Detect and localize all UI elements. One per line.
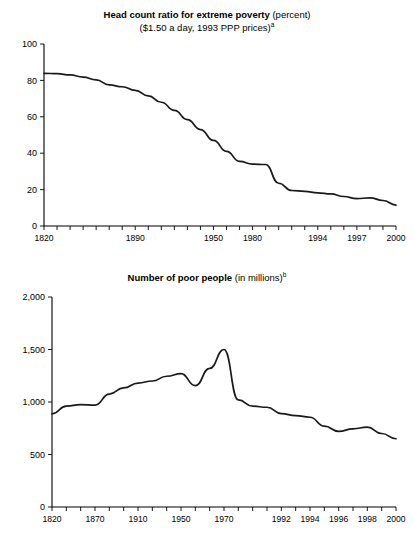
poverty-charts-figure: Head count ratio for extreme poverty (pe…	[0, 0, 414, 540]
y-axis-tick-label: 0	[32, 221, 37, 231]
chart2-title-superscript: b	[283, 271, 287, 278]
y-axis-tick-label: 2,000	[22, 292, 45, 302]
x-axis-tick-label: 1870	[85, 514, 104, 524]
chart-number-of-poor-people: Number of poor people (in millions)b 050…	[0, 268, 414, 540]
chart2-title-rest: (in millions)	[232, 272, 283, 283]
x-axis-tick-label: 1994	[300, 514, 319, 524]
y-axis-tick-label: 80	[27, 76, 37, 86]
data-series-line	[44, 73, 396, 205]
chart1-subtitle-superscript: a	[271, 20, 275, 27]
x-axis-tick-label: 2000	[386, 514, 405, 524]
x-axis-tick-label: 1970	[214, 514, 233, 524]
y-axis-tick-label: 100	[22, 39, 37, 49]
x-axis-tick-label: 2000	[386, 233, 405, 243]
chart1-subtitle: ($1.50 a day, 1993 PPP prices)	[140, 22, 271, 33]
chart2-svg: 05001,0001,5002,000182018701910195019701…	[0, 285, 414, 533]
chart1-title: Head count ratio for extreme poverty (pe…	[0, 0, 414, 34]
y-axis-tick-label: 20	[27, 185, 37, 195]
chart1-title-rest: (percent)	[270, 9, 311, 20]
x-axis-tick-label: 1997	[347, 233, 366, 243]
y-axis-tick-label: 500	[30, 449, 45, 459]
x-axis-tick-label: 1820	[34, 233, 53, 243]
x-axis-tick-label: 1950	[171, 514, 190, 524]
chart2-title-bold: Number of poor people	[128, 272, 233, 283]
chart1-svg: 0204060801001820189019501980199419972000	[0, 34, 414, 246]
chart2-title: Number of poor people (in millions)b	[0, 268, 414, 285]
x-axis-tick-label: 1992	[272, 514, 291, 524]
chart-head-count-ratio: Head count ratio for extreme poverty (pe…	[0, 0, 414, 250]
x-axis-tick-label: 1950	[204, 233, 223, 243]
x-axis-tick-label: 1994	[308, 233, 327, 243]
x-axis-tick-label: 1910	[128, 514, 147, 524]
chart1-plot-area: 0204060801001820189019501980199419972000	[0, 34, 414, 246]
x-axis-tick-label: 1980	[243, 233, 262, 243]
y-axis-tick-label: 1,000	[22, 397, 45, 407]
x-axis-tick-label: 1820	[42, 514, 61, 524]
x-axis-tick-label: 1996	[329, 514, 348, 524]
y-axis-tick-label: 40	[27, 148, 37, 158]
data-series-line	[52, 349, 396, 438]
x-axis-tick-label: 1998	[358, 514, 377, 524]
chart1-title-bold: Head count ratio for extreme poverty	[104, 9, 270, 20]
y-axis-tick-label: 0	[40, 502, 45, 512]
x-axis-tick-label: 1890	[126, 233, 145, 243]
chart2-plot-area: 05001,0001,5002,000182018701910195019701…	[0, 285, 414, 533]
y-axis-tick-label: 1,500	[22, 344, 45, 354]
y-axis-tick-label: 60	[27, 112, 37, 122]
